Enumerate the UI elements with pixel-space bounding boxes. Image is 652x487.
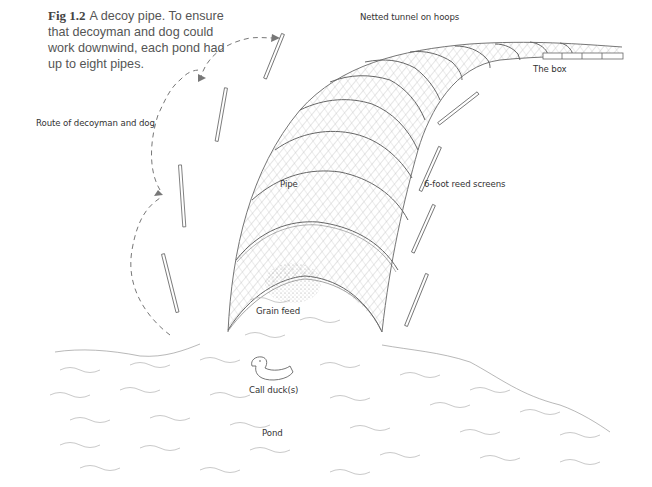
figure-number: Fig 1.2 <box>48 8 86 23</box>
call-duck-drawing <box>252 357 293 380</box>
decoy-pipe-diagram: Fig 1.2A decoy pipe. To ensure that deco… <box>0 0 652 487</box>
label-route: Route of decoyman and dog <box>36 118 155 128</box>
figure-caption: Fig 1.2A decoy pipe. To ensure that deco… <box>48 8 238 72</box>
label-the-box: The box <box>533 64 567 74</box>
water-ripples <box>50 298 600 475</box>
label-call-duck: Call duck(s) <box>249 385 298 395</box>
bank-line <box>55 344 610 432</box>
label-netted-tunnel: Netted tunnel on hoops <box>360 12 459 22</box>
label-reed-screens: 6-foot reed screens <box>424 179 505 189</box>
label-grain-feed: Grain feed <box>256 306 300 316</box>
grain-feed-stipple <box>265 263 321 303</box>
the-box <box>543 53 623 59</box>
label-pipe: Pipe <box>280 179 298 189</box>
label-pond: Pond <box>262 428 283 438</box>
